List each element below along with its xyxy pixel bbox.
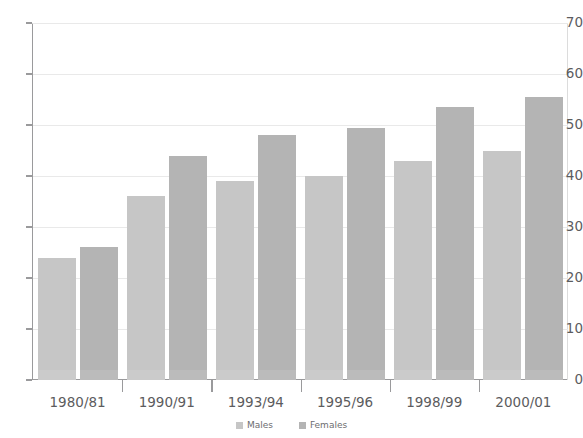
bar-females-2000-01: [525, 97, 563, 380]
legend-item-males[interactable]: Males: [236, 421, 273, 430]
chart-legend: MalesFemales: [0, 421, 583, 430]
bar-base-highlight: [127, 370, 165, 380]
y-tick-mark: [26, 124, 32, 125]
legend-item-females[interactable]: Females: [299, 421, 347, 430]
x-tick-mark: [479, 380, 480, 392]
x-tick-label: 1995/96: [301, 396, 390, 410]
bar-base-highlight: [216, 370, 254, 380]
bar-males-1980-81: [38, 258, 76, 380]
bar-females-1980-81: [80, 247, 118, 380]
bar-females-1995-96: [347, 128, 385, 380]
bar-males-1998-99: [394, 161, 432, 380]
legend-swatch-icon: [236, 422, 243, 429]
bar-females-1990-91: [169, 156, 207, 380]
bar-chart: 010203040506070 1980/811990/911993/94199…: [0, 0, 583, 438]
bar-base-highlight: [258, 370, 296, 380]
x-tick-mark: [301, 380, 302, 392]
bar-males-1990-91: [127, 196, 165, 380]
x-tick-label: 1980/81: [33, 396, 122, 410]
bar-females-1993-94: [258, 135, 296, 380]
legend-label: Males: [247, 421, 273, 430]
x-tick-mark: [390, 380, 391, 392]
bar-base-highlight: [38, 370, 76, 380]
y-tick-mark: [26, 379, 32, 380]
bar-base-highlight: [305, 370, 343, 380]
x-tick-mark: [211, 380, 212, 392]
y-tick-mark: [26, 22, 32, 23]
bar-base-highlight: [394, 370, 432, 380]
y-tick-mark: [26, 277, 32, 278]
bar-base-highlight: [436, 370, 474, 380]
bar-females-1998-99: [436, 107, 474, 380]
bar-base-highlight: [169, 370, 207, 380]
bar-base-highlight: [347, 370, 385, 380]
y-tick-mark: [26, 73, 32, 74]
x-tick-mark: [122, 380, 123, 392]
bar-base-highlight: [525, 370, 563, 380]
x-tick-label: 1998/99: [390, 396, 479, 410]
x-tick-label: 1993/94: [211, 396, 300, 410]
y-tick-mark: [26, 226, 32, 227]
bar-males-2000-01: [483, 151, 521, 381]
bar-males-1993-94: [216, 181, 254, 380]
bars-layer: [33, 23, 568, 380]
y-tick-mark: [26, 175, 32, 176]
legend-swatch-icon: [299, 422, 306, 429]
bar-males-1995-96: [305, 176, 343, 380]
x-tick-label: 2000/01: [479, 396, 568, 410]
bar-base-highlight: [483, 370, 521, 380]
x-tick-label: 1990/91: [122, 396, 211, 410]
bar-base-highlight: [80, 370, 118, 380]
y-tick-mark: [26, 328, 32, 329]
legend-label: Females: [310, 421, 347, 430]
